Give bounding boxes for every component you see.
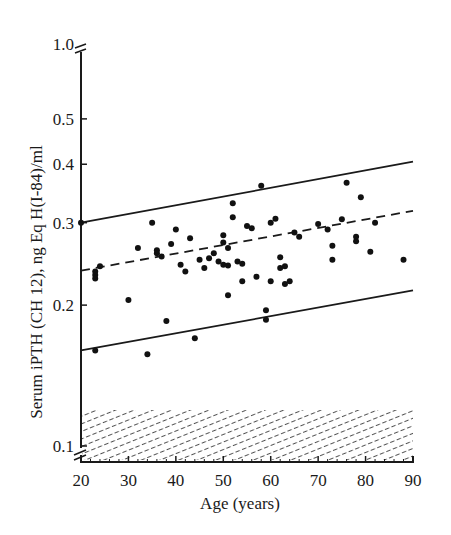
data-point xyxy=(154,247,160,253)
data-point xyxy=(92,275,98,281)
data-point xyxy=(197,257,203,263)
data-point xyxy=(178,262,184,268)
data-point xyxy=(92,347,98,353)
data-point xyxy=(253,274,259,280)
data-point xyxy=(220,240,226,246)
data-point xyxy=(401,257,407,263)
data-point xyxy=(296,234,302,240)
data-point xyxy=(353,234,359,240)
x-tick-label: 30 xyxy=(120,471,137,490)
x-axis-label: Age (years) xyxy=(200,494,280,513)
data-point xyxy=(268,220,274,226)
data-point xyxy=(173,227,179,233)
x-tick-label: 40 xyxy=(167,471,184,490)
data-point xyxy=(291,229,297,235)
axis-break-top xyxy=(75,44,86,53)
data-point xyxy=(344,180,350,186)
data-point xyxy=(249,225,255,231)
x-tick-label: 50 xyxy=(215,471,232,490)
line-solid xyxy=(81,162,413,223)
data-point xyxy=(239,278,245,284)
y-tick-label: 0.1 xyxy=(53,437,74,456)
data-point xyxy=(277,254,283,260)
y-tick-label: 0.3 xyxy=(53,214,74,233)
data-point xyxy=(239,261,245,267)
data-point xyxy=(168,241,174,247)
x-tick-label: 80 xyxy=(357,471,374,490)
data-point xyxy=(182,268,188,274)
data-point xyxy=(192,335,198,341)
data-point xyxy=(263,307,269,313)
data-point xyxy=(225,263,231,269)
data-point xyxy=(187,235,193,241)
y-tick-label: 0.5 xyxy=(53,110,74,129)
data-point xyxy=(230,200,236,206)
data-point xyxy=(125,297,131,303)
hatched-region xyxy=(82,410,413,460)
y-tick-label: 0.2 xyxy=(53,296,74,315)
data-point xyxy=(225,292,231,298)
y-axis xyxy=(74,44,86,462)
y-tick-label: 0.4 xyxy=(53,155,75,174)
data-point xyxy=(201,265,207,271)
data-point xyxy=(358,194,364,200)
data-point xyxy=(272,216,278,222)
data-point xyxy=(144,351,150,357)
data-point xyxy=(211,250,217,256)
data-point xyxy=(163,318,169,324)
data-point xyxy=(263,317,269,323)
data-point xyxy=(325,227,331,233)
data-points xyxy=(78,180,407,357)
data-point xyxy=(282,263,288,269)
data-point xyxy=(97,263,103,269)
data-point xyxy=(230,214,236,220)
scatter-chart: 2030405060708090 0.10.20.30.40.51.0 Age … xyxy=(0,0,451,535)
data-point xyxy=(329,243,335,249)
data-point xyxy=(315,221,321,227)
data-point xyxy=(92,268,98,274)
data-point xyxy=(339,216,345,222)
line-dashed xyxy=(81,211,413,271)
y-tick-label: 1.0 xyxy=(53,35,74,54)
reference-lines xyxy=(81,162,413,351)
data-point xyxy=(225,245,231,251)
y-axis-label: Serum iPTH (CH 12), ng Eq H(I-84)/ml xyxy=(27,145,46,419)
x-tick-label: 60 xyxy=(262,471,279,490)
data-point xyxy=(372,220,378,226)
data-point xyxy=(329,257,335,263)
data-point xyxy=(206,255,212,261)
data-point xyxy=(258,183,264,189)
data-point xyxy=(220,232,226,238)
data-point xyxy=(268,278,274,284)
data-point xyxy=(367,249,373,255)
x-tick-label: 90 xyxy=(405,471,422,490)
x-tick-label: 20 xyxy=(73,471,90,490)
data-point xyxy=(159,254,165,260)
data-point xyxy=(78,220,84,226)
data-point xyxy=(287,278,293,284)
x-tick-label: 70 xyxy=(310,471,327,490)
data-point xyxy=(135,245,141,251)
data-point xyxy=(149,220,155,226)
